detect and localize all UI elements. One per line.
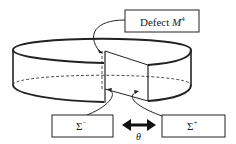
sigma-plus-pointer [132, 92, 162, 116]
defect-pointer [94, 20, 125, 52]
defect-superscript: 4 [181, 15, 185, 23]
cylinder-bottom-front-edge-right [148, 85, 191, 101]
svg-text:Defect M4: Defect M4 [140, 15, 185, 28]
cylinder-top-front-edge-left [13, 50, 104, 63]
sigma-plus-arrowhead [134, 90, 139, 94]
wedge-top-edge [105, 51, 148, 65]
cylinder-top-front-edge-right [148, 50, 191, 65]
cylinder-top-back-edge [13, 39, 191, 50]
cylinder-bottom-front-edge-left [13, 85, 104, 102]
cylinder [13, 39, 191, 103]
theta-label: θ [136, 131, 141, 142]
defect-label-box: Defect M4 [125, 10, 199, 32]
double-arrow-icon [122, 119, 156, 131]
sigma-minus-box: Σ− [52, 115, 113, 137]
defect-label-text: Defect [140, 16, 172, 28]
sigma-plus-box: Σ+ [162, 115, 225, 137]
sigma-minus-superscript: − [82, 119, 86, 127]
defect-diagram: Defect M4 Σ− Σ+ θ [0, 0, 236, 144]
sigma-plus-superscript: + [193, 119, 197, 127]
